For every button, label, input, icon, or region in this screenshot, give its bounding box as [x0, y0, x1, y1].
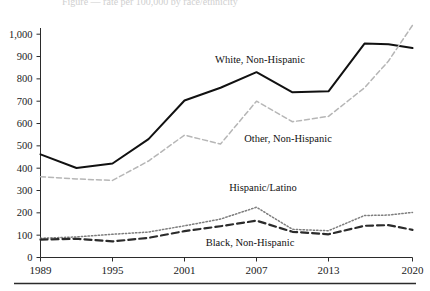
series-annotation-white-non-hispanic: White, Non-Hispanic — [215, 54, 305, 65]
x-tick-label: 2020 — [402, 264, 425, 276]
y-tick-label: 800 — [17, 73, 33, 84]
y-tick-label: 700 — [17, 96, 33, 107]
y-tick-label: 500 — [17, 140, 33, 151]
x-tick-label: 2013 — [318, 264, 341, 276]
series-annotation-hispanic-latino: Hispanic/Latino — [229, 182, 297, 193]
y-tick-label: 400 — [17, 163, 33, 174]
x-tick-marks — [41, 258, 413, 262]
series-annotation-layer: White, Non-HispanicOther, Non-HispanicHi… — [206, 54, 332, 248]
series-annotation-other-non-hispanic: Other, Non-Hispanic — [244, 133, 332, 144]
y-tick-label: 600 — [17, 118, 33, 129]
series-line-other-non-hispanic — [41, 25, 413, 180]
x-tick-label: 1989 — [30, 264, 53, 276]
x-tick-label: 2007 — [246, 264, 269, 276]
x-tick-label: 2001 — [174, 264, 196, 276]
y-tick-label: 0 — [27, 252, 32, 263]
y-tick-label: 200 — [17, 207, 33, 218]
chart-figure: Figure — rate per 100,000 by race/ethnic… — [0, 0, 430, 291]
y-tick-labels: 01002003004005006007008009001,000 — [9, 29, 33, 263]
series-line-hispanic-latino — [41, 207, 413, 238]
y-tick-marks — [37, 34, 41, 257]
series-annotation-black-non-hispanic: Black, Non-Hispanic — [206, 237, 295, 248]
x-axis: 198919952001200720132020 — [30, 258, 425, 276]
y-tick-label: 1,000 — [9, 29, 33, 40]
y-tick-label: 900 — [17, 51, 33, 62]
y-tick-label: 100 — [17, 230, 33, 241]
line-chart-canvas: 01002003004005006007008009001,000 198919… — [0, 0, 430, 291]
x-tick-label: 1995 — [102, 264, 125, 276]
x-tick-labels: 198919952001200720132020 — [30, 264, 425, 276]
y-axis: 01002003004005006007008009001,000 — [9, 28, 41, 263]
y-tick-label: 300 — [17, 185, 33, 196]
